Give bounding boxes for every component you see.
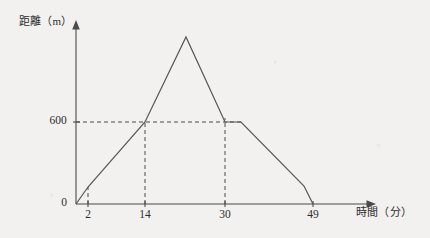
y-axis — [72, 20, 80, 204]
y-tick-label-0: 0 — [58, 196, 70, 208]
x-tick-label-2: 2 — [81, 208, 95, 220]
x-axis-label: 時間（分） — [356, 203, 412, 219]
chart-figure: 距離（m） 時間（分） 0 600 2 14 30 49 — [0, 0, 430, 238]
x-axis — [76, 200, 376, 208]
axis-ticks — [73, 122, 313, 207]
distance-series-line — [76, 37, 313, 204]
y-tick-label-600: 600 — [45, 114, 71, 126]
x-tick-label-49: 49 — [305, 208, 321, 220]
x-tick-label-14: 14 — [137, 208, 153, 220]
y-axis-label: 距離（m） — [19, 12, 73, 28]
x-tick-label-30: 30 — [217, 208, 233, 220]
